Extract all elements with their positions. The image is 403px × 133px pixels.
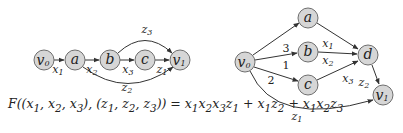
node-label-a: a	[304, 9, 312, 25]
edge-v0-b	[255, 53, 297, 60]
edge-label-x2: x2	[322, 54, 333, 68]
node-label-c: c	[304, 76, 312, 92]
node-label-c: c	[141, 51, 149, 67]
edge-label-z2: z2	[121, 81, 133, 95]
edge-v0-c	[254, 67, 298, 81]
edge-label-x2: x2	[86, 63, 97, 77]
formula: F((x1, x2, x3), (z1, z2, z3)) = x1x2x3z1…	[8, 96, 343, 114]
edge-weight-2: 2	[268, 74, 275, 87]
formula-text: F((x1, x2, x3), (z1, z2, z3)) = x1x2x3z1…	[8, 96, 343, 111]
edge-label-x3: x3	[122, 63, 133, 77]
node-label-b: b	[304, 43, 313, 59]
node-label-a: a	[71, 51, 79, 67]
edge-label-x1: x1	[322, 37, 333, 51]
node-label-d: d	[364, 46, 373, 62]
edge-label-z3: z3	[141, 23, 153, 37]
edge-weight-1: 1	[283, 59, 290, 72]
edge-label-z1: z1	[156, 63, 168, 77]
left-graph: v0 a b c v1 x1 x2 x3 z1 z3 z2	[34, 23, 190, 95]
edge-label-x1: x1	[52, 63, 63, 77]
edge-label-z2: z2	[358, 76, 370, 90]
edge-label-x3: x3	[342, 72, 353, 86]
node-label-b: b	[106, 51, 115, 67]
edge-v0-a	[253, 23, 299, 55]
edge-weight-3: 3	[283, 42, 290, 55]
edge-d-v1	[372, 65, 379, 84]
